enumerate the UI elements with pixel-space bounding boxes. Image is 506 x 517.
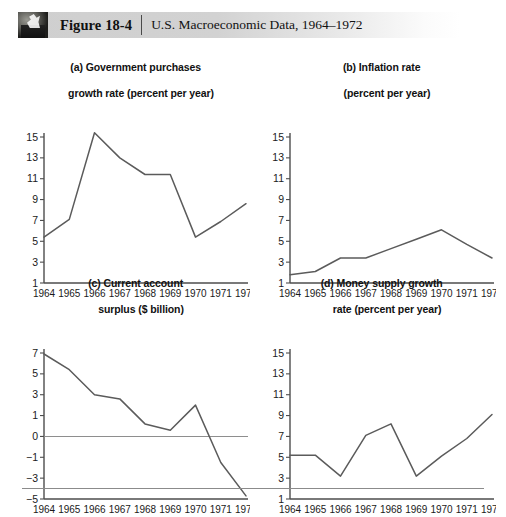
chart-panel-d: (d) Money supply growth rate (percent pe…	[256, 264, 496, 517]
x-tick-label: 1969	[159, 504, 182, 515]
y-tick-label: 15	[272, 131, 284, 143]
chart-svg-d: 1513119753119641965196619671968196919701…	[256, 347, 496, 517]
x-tick-label: 1964	[279, 504, 302, 515]
data-series-line	[44, 133, 246, 237]
y-tick-label: 5	[278, 451, 284, 463]
x-tick-label: 1970	[184, 504, 207, 515]
y-tick-label: 11	[27, 172, 38, 184]
y-tick-label: 7	[32, 214, 38, 226]
x-tick-label: 1968	[134, 504, 157, 515]
y-tick-label: 15	[26, 131, 38, 143]
y-tick-label: 0	[32, 430, 38, 442]
x-tick-label: 1972	[235, 504, 250, 515]
chart-title-a-line1: (a) Government purchases	[70, 61, 201, 73]
chart-plot-d: 1513119753119641965196619671968196919701…	[256, 347, 496, 517]
chart-title-b: (b) Inflation rate (percent per year)	[256, 48, 496, 126]
y-tick-label: 3	[278, 472, 284, 484]
figure-header: Figure 18-4 U.S. Macroeconomic Data, 196…	[18, 12, 460, 38]
y-tick-label: 7	[278, 430, 284, 442]
x-tick-label: 1970	[430, 504, 453, 515]
x-tick-label: 1965	[304, 504, 327, 515]
chart-title-d-line2: rate (percent per year)	[256, 303, 496, 316]
y-tick-label: 5	[32, 367, 38, 379]
y-tick-label: 5	[32, 235, 38, 247]
x-tick-label: 1967	[355, 504, 378, 515]
chart-plot-c: 75310−1−3−519641965196619671968196919701…	[10, 347, 250, 517]
x-tick-label: 1967	[109, 504, 132, 515]
chart-title-d-line1: (d) Money supply growth	[321, 277, 443, 289]
chart-title-b-line2: (percent per year)	[256, 87, 496, 100]
y-tick-label: −1	[26, 451, 38, 463]
y-tick-label: 9	[278, 409, 284, 421]
chart-panel-c: (c) Current account surplus ($ billion) …	[10, 264, 250, 517]
chart-title-d: (d) Money supply growth rate (percent pe…	[256, 264, 496, 342]
chart-title-c-line1: (c) Current account	[88, 277, 183, 289]
footer-divider	[22, 488, 484, 489]
x-tick-label: 1972	[481, 504, 496, 515]
y-tick-label: 1	[278, 493, 284, 505]
data-series-line	[290, 415, 492, 477]
chart-title-c: (c) Current account surplus ($ billion)	[10, 264, 250, 342]
chart-title-b-line1: (b) Inflation rate	[343, 61, 421, 73]
chart-svg-c: 75310−1−3−519641965196619671968196919701…	[10, 347, 250, 517]
y-tick-label: 9	[32, 193, 38, 205]
x-tick-label: 1965	[58, 504, 81, 515]
y-tick-label: 9	[278, 193, 284, 205]
y-tick-label: 7	[32, 347, 38, 359]
x-tick-label: 1966	[83, 504, 106, 515]
data-series-line	[44, 354, 246, 496]
y-tick-label: 13	[272, 367, 284, 379]
figure-caption: U.S. Macroeconomic Data, 1964–1972	[142, 12, 362, 38]
chart-title-a-line2: growth rate (percent per year)	[10, 87, 250, 100]
x-tick-label: 1971	[210, 504, 233, 515]
y-tick-label: 11	[273, 388, 284, 400]
x-tick-label: 1969	[405, 504, 428, 515]
photo-thumbnail-icon	[18, 12, 48, 38]
y-tick-label: 13	[26, 151, 38, 163]
y-tick-label: 11	[273, 172, 284, 184]
y-tick-label: 15	[272, 347, 284, 359]
y-tick-label: 13	[272, 151, 284, 163]
figure-number-label: Figure 18-4	[48, 12, 141, 38]
x-tick-label: 1964	[33, 504, 56, 515]
chart-title-a: (a) Government purchases growth rate (pe…	[10, 48, 250, 126]
x-tick-label: 1966	[329, 504, 352, 515]
y-tick-label: 7	[278, 214, 284, 226]
y-tick-label: 1	[32, 409, 38, 421]
y-tick-label: 3	[32, 388, 38, 400]
y-tick-label: −3	[26, 472, 38, 484]
y-tick-label: 5	[278, 235, 284, 247]
x-tick-label: 1971	[456, 504, 479, 515]
chart-title-c-line2: surplus ($ billion)	[10, 303, 250, 316]
x-tick-label: 1968	[380, 504, 403, 515]
y-tick-label: −5	[26, 493, 38, 505]
